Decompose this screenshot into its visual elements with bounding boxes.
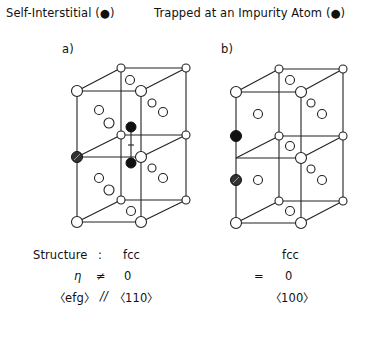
structure-value-b: fcc <box>282 248 299 262</box>
interstitial-atom-lower <box>126 158 136 168</box>
efg-direction-a: 〈110〉 <box>114 289 158 305</box>
efg-relation-a: // <box>100 289 108 303</box>
efg-direction-b: 〈100〉 <box>270 289 314 305</box>
impurity-atom-b <box>231 175 242 186</box>
efg-label: 〈efg〉 <box>54 289 95 305</box>
interstitial-atom-upper <box>126 122 136 132</box>
eta-relation-a: ≠ <box>96 269 106 283</box>
interstitial-atom-b <box>231 131 242 142</box>
structure-colon: : <box>98 248 102 262</box>
eta-symbol: η <box>74 269 81 283</box>
eta-relation-b: = <box>254 269 264 283</box>
structure-label: Structure <box>33 248 87 262</box>
structure-value-a: fcc <box>123 248 140 262</box>
fcc-diagrams <box>0 0 372 337</box>
impurity-atom-a <box>72 152 83 163</box>
eta-value-b: 0 <box>285 269 292 283</box>
cube-b <box>231 65 348 229</box>
cube-a <box>72 64 191 228</box>
eta-value-a: 0 <box>124 269 131 283</box>
